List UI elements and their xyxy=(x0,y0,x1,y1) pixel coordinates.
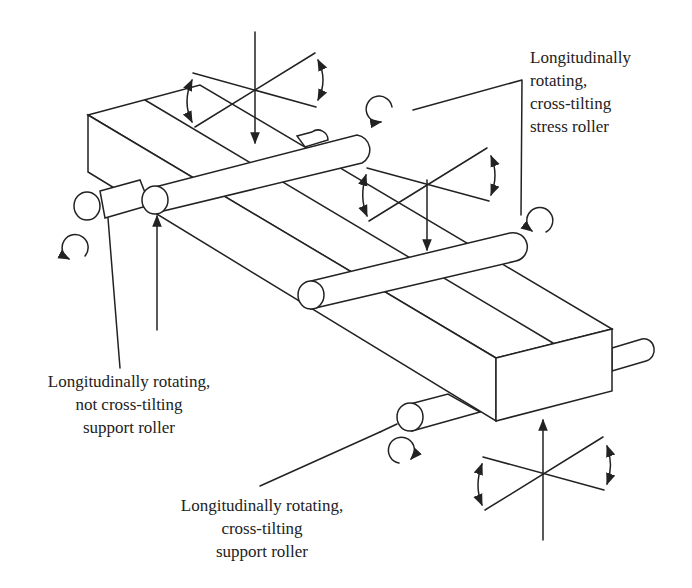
label-line: Longitudinally rotating, xyxy=(140,494,384,517)
tilt-axis-icon xyxy=(478,437,611,510)
label-line: support roller xyxy=(0,416,258,439)
label-line: cross-tilting xyxy=(530,92,631,115)
leader-line-support-front-right xyxy=(260,432,380,486)
label-support-roller-tilting: Longitudinally rotating, cross-tilting s… xyxy=(140,494,384,563)
label-line: not cross-tilting xyxy=(0,393,258,416)
label-line: rotating, xyxy=(530,69,631,92)
label-line: cross-tilting xyxy=(140,517,384,540)
rotation-arrow-icon xyxy=(62,235,88,259)
rotation-arrow-icon xyxy=(388,437,414,463)
label-line: support roller xyxy=(140,540,384,563)
label-line: stress roller xyxy=(530,115,631,138)
label-line: Longitudinally rotating, xyxy=(0,370,258,393)
label-support-roller-not-tilting: Longitudinally rotating, not cross-tilti… xyxy=(0,370,258,439)
rotation-arrow-icon xyxy=(527,208,553,232)
label-line: Longitudinally xyxy=(530,46,631,69)
leader-line-support-left xyxy=(108,218,120,368)
support-roller-right xyxy=(612,339,654,371)
label-stress-roller: Longitudinally rotating, cross-tilting s… xyxy=(530,46,631,138)
rotation-arrow-icon xyxy=(366,96,392,122)
